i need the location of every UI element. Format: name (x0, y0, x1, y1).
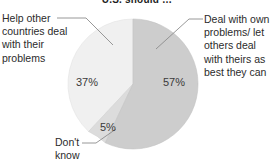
pie-chart-figure: U.S. should … 57% 37% 5% Help other coun… (0, 0, 274, 166)
pie-value-help-other-countries: 37% (76, 76, 98, 88)
callout-label-dont-know: Don't know (55, 136, 105, 162)
pie-value-deal-with-own-problems: 57% (163, 76, 185, 88)
callout-label-deal-with-own-problems: Deal with own problems/ let others deal … (204, 13, 274, 79)
pie-value-dont-know: 5% (100, 121, 116, 133)
callout-label-help-other-countries: Help other countries deal with their pro… (2, 12, 78, 65)
